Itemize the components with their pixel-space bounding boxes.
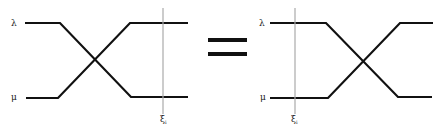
right-lambda-strand <box>270 23 432 97</box>
left-mu-label: μ <box>11 92 17 102</box>
right-marker-subscript: i <box>296 119 298 125</box>
braid-diagram: λ μ ξ i λ μ ξ i <box>0 0 445 131</box>
equals-sign <box>208 38 247 56</box>
left-diagram: λ μ ξ i <box>11 8 188 125</box>
right-diagram: λ μ ξ i <box>259 8 433 125</box>
right-lambda-label: λ <box>259 18 265 28</box>
left-mu-strand <box>26 23 188 98</box>
left-lambda-label: λ <box>11 18 17 28</box>
left-marker-subscript: i <box>165 119 167 125</box>
right-mu-label: μ <box>260 92 266 102</box>
